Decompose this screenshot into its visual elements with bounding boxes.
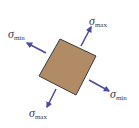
label-sigma-min-right: σmin [110,87,127,102]
subscript: min [14,34,25,42]
label-sigma-min-left: σmin [8,27,25,42]
arrow-sigma-max-bottom [47,89,56,107]
subscript: max [35,113,48,121]
arrow-sigma-min-right [89,80,109,91]
subscript: min [116,94,127,102]
arrow-sigma-min-left [27,43,46,53]
subscript: max [95,21,108,29]
arrow-sigma-max-top [81,27,91,46]
label-sigma-max-top: σmax [89,14,107,29]
stress-element-square [39,39,96,95]
stress-element-diagram: σmax σmin σmin σmax [0,0,139,128]
label-sigma-max-bottom: σmax [29,106,47,121]
